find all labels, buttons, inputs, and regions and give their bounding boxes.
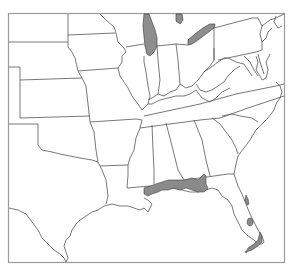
lake-huron (176, 14, 183, 24)
shaded-regions (144, 174, 262, 253)
florida-southeast-range (246, 232, 262, 252)
texas-coast (9, 206, 104, 262)
lake-michigan (143, 14, 157, 56)
lake-okeechobee (247, 218, 253, 226)
louisiana-coast (104, 198, 152, 212)
great-lakes (143, 14, 215, 56)
chesapeake-bay (256, 54, 270, 80)
range-map (0, 0, 294, 266)
florida-keys-dot (245, 251, 247, 253)
coastlines (9, 16, 282, 262)
atlantic-coast (234, 82, 282, 174)
lake-erie (188, 24, 215, 45)
